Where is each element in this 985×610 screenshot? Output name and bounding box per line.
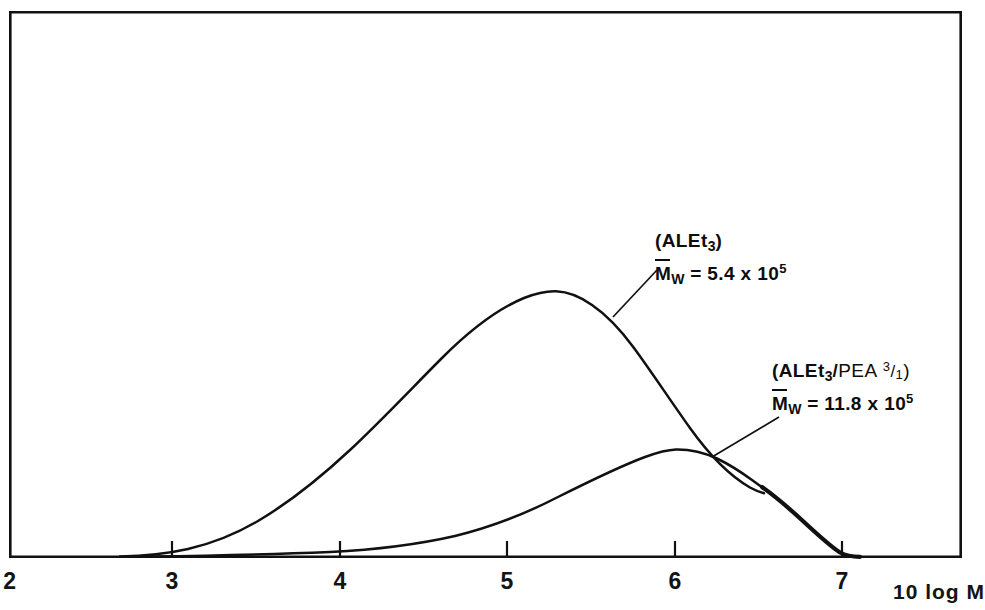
x-tick-label-5: 5 <box>501 570 514 593</box>
x-tick-label-7: 7 <box>836 570 849 593</box>
plot-frame <box>10 12 960 556</box>
annotation-curve2: (ALEt3/PEA 3/1) MW = 11.8 x 105 <box>772 358 913 419</box>
x-tick-label-4: 4 <box>334 570 347 593</box>
leader-line-curve1 <box>613 270 657 317</box>
m-bar-symbol: M <box>655 261 671 288</box>
distribution-curve-alet3 <box>120 291 764 556</box>
annotation-curve1: (ALEt3) MW = 5.4 x 105 <box>655 228 786 289</box>
annotation-curve1-line1: (ALEt3) <box>655 228 786 257</box>
ratio-fraction: 3/1 <box>878 362 904 381</box>
leader-line-curve2 <box>712 417 779 457</box>
x-axis-title: 10 log M <box>893 581 985 602</box>
m-bar-symbol: M <box>772 391 788 418</box>
x-tick-label-2: 2 <box>3 570 16 593</box>
x-tick-label-3: 3 <box>166 570 179 593</box>
merged-curve-tail <box>762 487 860 557</box>
annotation-curve2-line1: (ALEt3/PEA 3/1) <box>772 358 913 387</box>
annotation-curve2-line2: MW = 11.8 x 105 <box>772 390 913 420</box>
x-tick-label-6: 6 <box>669 570 682 593</box>
annotation-curve1-line2: MW = 5.4 x 105 <box>655 260 786 290</box>
distribution-curve-pea <box>150 449 764 556</box>
